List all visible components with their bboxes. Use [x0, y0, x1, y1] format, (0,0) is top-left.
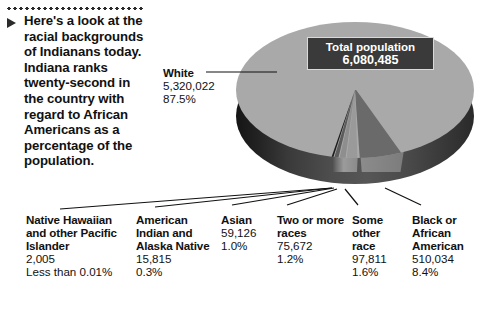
callout-black-or-african-american: Black or African American 510,034 8.4% — [412, 213, 488, 278]
callout-black-percent: 8.4% — [412, 265, 488, 278]
intro-paragraph: Here's a look at the racial backgrounds … — [24, 13, 144, 169]
callout-two-title: Two or more races — [277, 213, 349, 239]
callout-black-title: Black or African American — [412, 213, 488, 252]
callout-asian-value: 59,126 — [221, 226, 277, 239]
callout-some-percent: 1.6% — [352, 265, 404, 278]
callout-some-value: 97,811 — [352, 252, 404, 265]
infographic-root: Here's a look at the racial backgrounds … — [0, 0, 491, 311]
callout-some-title: Some other race — [352, 213, 404, 252]
callout-black-value: 510,034 — [412, 252, 488, 265]
callout-nhpi-percent: Less than 0.01% — [26, 265, 126, 278]
callout-nhpi-value: 2,005 — [26, 252, 126, 265]
dotted-divider — [6, 7, 144, 10]
callout-nhpi-title: Native Hawaiian and other Pacific Island… — [26, 213, 126, 252]
callout-white-title: White — [163, 66, 233, 79]
callout-white-percent: 87.5% — [163, 92, 233, 105]
callout-two-percent: 1.2% — [277, 252, 349, 265]
callout-some-other-race: Some other race 97,811 1.6% — [352, 213, 404, 278]
callout-asian-percent: 1.0% — [221, 239, 277, 252]
total-population-value: 6,080,485 — [342, 53, 398, 67]
total-population-label: Total population — [326, 40, 415, 53]
leader-line-asian — [232, 188, 334, 205]
callout-aian-title: American Indian and Alaska Native — [136, 213, 218, 252]
callout-aian-value: 15,815 — [136, 252, 218, 265]
callout-asian-title: Asian — [221, 213, 277, 226]
leader-line-some — [345, 189, 358, 205]
leader-line-aian — [155, 188, 332, 207]
leader-line-nhpi — [60, 188, 332, 209]
callout-two-value: 75,672 — [277, 239, 349, 252]
callout-native-hawaiian-pacific-islander: Native Hawaiian and other Pacific Island… — [26, 213, 126, 278]
callout-two-or-more-races: Two or more races 75,672 1.2% — [277, 213, 349, 265]
callout-white-value: 5,320,022 — [163, 79, 233, 92]
callout-aian-percent: 0.3% — [136, 265, 218, 278]
callout-american-indian-alaska-native: American Indian and Alaska Native 15,815… — [136, 213, 218, 278]
triangle-right-icon — [7, 18, 16, 28]
total-population-badge: Total population 6,080,485 — [307, 37, 434, 70]
callout-white: White 5,320,022 87.5% — [163, 66, 233, 105]
leader-line-black — [385, 188, 421, 205]
callout-asian: Asian 59,126 1.0% — [221, 213, 277, 252]
leader-line-two — [287, 189, 337, 205]
